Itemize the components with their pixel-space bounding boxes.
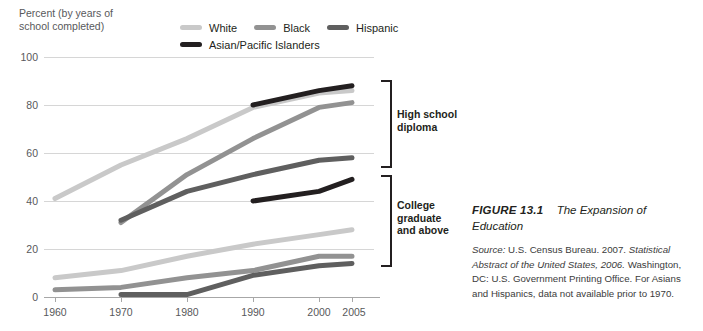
legend-item-hispanic: Hispanic	[327, 22, 398, 34]
bracket-label-high-school: High schooldiploma	[397, 108, 477, 133]
x-label-2000: 2000	[307, 306, 330, 318]
source-italic-2: Abstract of the United States, 2006.	[472, 259, 625, 270]
legend-item-white: White	[180, 22, 237, 34]
y-tick-0: 0	[32, 291, 38, 303]
legend-label-hispanic: Hispanic	[356, 22, 398, 34]
legend-row-1: White Black Hispanic	[180, 19, 500, 36]
legend-swatch-hispanic	[327, 25, 349, 30]
y-tick-100: 100	[20, 51, 38, 63]
source-line-1: U.S. Census Bureau. 2007.	[508, 244, 626, 255]
figure-number: FIGURE 13.1	[472, 204, 543, 216]
x-label-1990: 1990	[241, 306, 264, 318]
bracket-high-school	[381, 80, 392, 168]
legend-label-black: Black	[283, 22, 310, 34]
legend-item-asian: Asian/Pacific Islanders	[180, 39, 320, 51]
legend-row-2: Asian/Pacific Islanders	[180, 36, 500, 53]
source-prefix: Source:	[472, 244, 505, 255]
caption-source: Source: U.S. Census Bureau. 2007. Statis…	[472, 243, 690, 301]
caption-title-line: FIGURE 13.1 The Expansion of Education	[472, 202, 690, 234]
legend-swatch-white	[180, 25, 202, 30]
y-axis-labels: 100 80 60 40 20 0	[0, 57, 38, 298]
y-tick-20: 20	[26, 243, 38, 255]
x-label-1970: 1970	[109, 306, 132, 318]
y-tick-80: 80	[26, 99, 38, 111]
bracket-college	[381, 175, 392, 267]
legend-label-asian: Asian/Pacific Islanders	[209, 39, 320, 51]
source-line-4: Hispanics, data not available prior to 1…	[491, 288, 674, 299]
source-italic-1: Statistical	[629, 244, 670, 255]
legend: White Black Hispanic Asian/Pacific Islan…	[180, 19, 500, 53]
y-tick-60: 60	[26, 147, 38, 159]
legend-swatch-asian	[180, 42, 202, 47]
x-axis-labels: 1960 1970 1980 1990 2000 2005	[44, 57, 384, 331]
y-tick-40: 40	[26, 195, 38, 207]
x-label-2005: 2005	[342, 306, 365, 318]
bracket-label-college: Collegegraduateand above	[397, 199, 477, 237]
legend-swatch-black	[254, 25, 276, 30]
x-label-1980: 1980	[175, 306, 198, 318]
figure-root: Percent (by years ofschool completed) Wh…	[0, 0, 703, 331]
legend-label-white: White	[209, 22, 237, 34]
legend-item-black: Black	[254, 22, 310, 34]
figure-caption: FIGURE 13.1 The Expansion of Education S…	[472, 202, 690, 301]
y-axis-title: Percent (by years ofschool completed)	[19, 7, 169, 32]
x-label-1960: 1960	[43, 306, 66, 318]
